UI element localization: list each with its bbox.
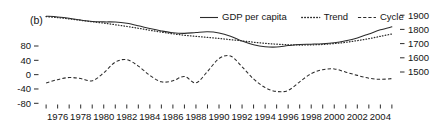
x-axis-tick-label: 1988	[185, 111, 206, 122]
chart-svg: (b) GDP per capitaTrendCycle 80400-40-80…	[0, 0, 443, 135]
right-axis: 19001800170016001500	[400, 10, 429, 78]
left-axis-tick-label: -80	[17, 98, 31, 109]
x-axis: 1976197819801982198419861988199019921994…	[46, 105, 392, 122]
chart-panel-b: (b) GDP per capitaTrendCycle 80400-40-80…	[0, 0, 443, 135]
x-axis-tick-label: 1980	[93, 111, 114, 122]
x-axis-tick-label: 1978	[70, 111, 91, 122]
x-axis-tick-label: 1992	[231, 111, 252, 122]
x-axis-tick-label: 1994	[255, 111, 276, 122]
x-axis-tick-label: 2004	[370, 111, 391, 122]
right-axis-tick-label: 1600	[408, 52, 429, 63]
legend-label-cycle: Cycle	[380, 11, 404, 22]
x-axis-tick-label: 2000	[324, 111, 345, 122]
series-path-cycle	[46, 55, 392, 91]
data-series	[46, 16, 392, 92]
right-axis-tick-label: 1500	[408, 66, 429, 77]
x-axis-tick-label: 1976	[47, 111, 68, 122]
x-axis-tick-label: 1998	[301, 111, 322, 122]
right-axis-tick-label: 1700	[408, 38, 429, 49]
legend-label-trend: Trend	[324, 11, 348, 22]
x-axis-tick-label: 1996	[278, 111, 299, 122]
left-axis-tick-label: -40	[17, 83, 31, 94]
legend-label-gdp-per-capita: GDP per capita	[222, 11, 287, 22]
panel-label: (b)	[30, 14, 43, 26]
legend-item-trend: Trend	[302, 11, 348, 22]
left-axis-tick-label: 80	[20, 40, 31, 51]
legend-item-cycle: Cycle	[358, 11, 404, 22]
left-axis: 80400-40-80	[17, 40, 38, 108]
chart-legend: GDP per capitaTrendCycle	[200, 11, 404, 22]
left-axis-tick-label: 40	[20, 55, 31, 66]
x-axis-tick-label: 2002	[347, 111, 368, 122]
left-axis-tick-label: 0	[26, 69, 31, 80]
x-axis-tick-label: 1990	[208, 111, 229, 122]
x-axis-tick-label: 1986	[162, 111, 183, 122]
right-axis-tick-label: 1800	[408, 24, 429, 35]
legend-item-gdp-per-capita: GDP per capita	[200, 11, 287, 22]
right-axis-tick-label: 1900	[408, 10, 429, 21]
x-axis-tick-label: 1982	[116, 111, 137, 122]
x-axis-tick-label: 1984	[139, 111, 160, 122]
